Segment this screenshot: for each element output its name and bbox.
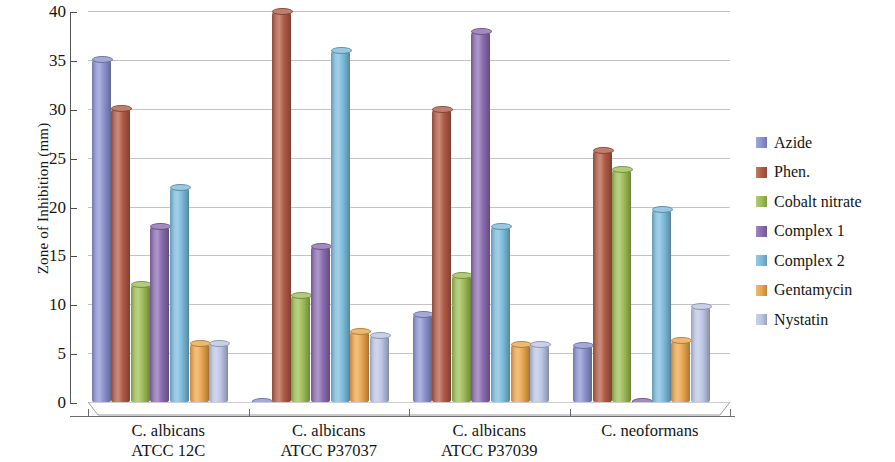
bar-fill (491, 225, 510, 403)
x-tick-mark (730, 409, 731, 417)
x-category-line: C. albicans (405, 421, 573, 441)
legend-swatch (756, 137, 767, 148)
legend-swatch (756, 255, 767, 266)
bar (491, 225, 510, 403)
bar-fill (170, 186, 189, 403)
bar-top-cap (593, 147, 614, 154)
legend-label: Complex 2 (774, 252, 845, 270)
x-category-label: C. albicansATCC P37037 (245, 421, 413, 461)
x-tick-mark (570, 409, 571, 417)
y-tick-label: 35 (22, 51, 66, 71)
legend-swatch (756, 285, 767, 296)
bar-top-cap (452, 272, 473, 279)
bar (92, 58, 111, 403)
bar (190, 342, 209, 403)
bar (691, 305, 710, 403)
bar (252, 400, 271, 403)
bar-fill (92, 58, 111, 403)
bar (452, 274, 471, 403)
bar-group (252, 12, 389, 403)
y-axis-ticks: 4035302520151050 (18, 12, 66, 403)
bar-top-cap (652, 206, 673, 213)
bar (632, 400, 651, 403)
bar-top-cap (370, 332, 391, 339)
bar (209, 342, 228, 403)
bar (272, 10, 291, 403)
bar-fill (471, 30, 490, 403)
y-tick-label: 0 (22, 393, 66, 413)
bar-group (92, 12, 229, 403)
bar (150, 225, 169, 403)
x-category-line: C. albicans (84, 421, 252, 441)
legend-swatch (756, 196, 767, 207)
legend-item: Complex 2 (756, 246, 892, 276)
bar (291, 294, 310, 403)
legend-item: Cobalt nitrate (756, 187, 892, 217)
bar-fill (209, 342, 228, 403)
x-tick-mark (88, 409, 89, 417)
bar-fill (452, 274, 471, 403)
bar-fill (272, 10, 291, 403)
y-tick-mark (70, 256, 77, 257)
bar-fill (413, 313, 432, 403)
legend-item: Nystatin (756, 305, 892, 335)
legend-item: Phen. (756, 158, 892, 188)
legend-label: Gentamycin (774, 281, 852, 299)
bar (471, 30, 490, 403)
x-category-label: C. albicansATCC P37039 (405, 421, 573, 461)
bar-top-cap (331, 47, 352, 54)
x-category-label: C. neoformans (566, 421, 734, 441)
bar (432, 108, 451, 403)
y-tick-mark (70, 159, 77, 160)
bar (573, 344, 592, 403)
y-tick-label: 30 (22, 100, 66, 120)
bar (652, 208, 671, 404)
bar (311, 245, 330, 403)
bar-fill (652, 208, 671, 404)
x-axis-line (70, 416, 735, 417)
bar-fill (612, 168, 631, 403)
bar-fill (691, 305, 710, 403)
y-tick-mark (70, 61, 77, 62)
bar-top-cap (252, 398, 273, 405)
y-tick-mark (70, 12, 77, 13)
bar-top-cap (432, 106, 453, 113)
y-tick-label: 10 (22, 295, 66, 315)
bar-top-cap (272, 8, 293, 15)
bar-group (413, 12, 550, 403)
bar-fill (350, 330, 369, 403)
bar-group (573, 12, 710, 403)
x-category-line: ATCC P37039 (405, 441, 573, 461)
x-category-line: ATCC P37037 (245, 441, 413, 461)
bar-top-cap (413, 311, 434, 318)
bar (511, 343, 530, 403)
x-tick-mark (409, 409, 410, 417)
legend-item: Azide (756, 128, 892, 158)
bar-top-cap (350, 328, 371, 335)
bar (593, 149, 612, 403)
legend-label: Nystatin (774, 311, 828, 329)
bar-fill (593, 149, 612, 403)
x-tick-mark (249, 409, 250, 417)
bars-layer (88, 12, 730, 403)
y-tick-label: 40 (22, 2, 66, 22)
x-category-line: C. albicans (245, 421, 413, 441)
bar (111, 107, 130, 403)
bar (170, 186, 189, 403)
bar (671, 339, 690, 404)
bar-fill (190, 342, 209, 403)
bar (370, 334, 389, 403)
x-category-line: ATCC 12C (84, 441, 252, 461)
x-category-label: C. albicansATCC 12C (84, 421, 252, 461)
y-tick-label: 15 (22, 246, 66, 266)
y-tick-mark (70, 110, 77, 111)
legend-label: Complex 1 (774, 222, 845, 240)
bar-chart: Zone of Inhibition (mm) 4035302520151050… (0, 0, 895, 462)
bar-top-cap (311, 243, 332, 250)
y-tick-mark (70, 208, 77, 209)
legend-swatch (756, 226, 767, 237)
bar-fill (530, 343, 549, 403)
bar-fill (311, 245, 330, 403)
bar-fill (150, 225, 169, 403)
y-axis-line (70, 12, 71, 404)
